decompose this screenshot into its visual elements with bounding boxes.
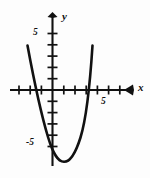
- coordinate-plot-svg: [0, 0, 150, 178]
- parabola-curve: [28, 46, 93, 162]
- y-tick-label-5: 5: [33, 28, 38, 38]
- y-tick-label-negative-5: -5: [26, 138, 34, 148]
- x-tick-label-5: 5: [101, 97, 106, 107]
- parabola-figure: y x 5 5 -5: [0, 0, 150, 178]
- x-axis-label: x: [138, 82, 144, 93]
- x-axis-arrowhead: [124, 85, 134, 96]
- y-axis-arrowhead: [48, 12, 58, 18]
- y-axis-label: y: [62, 11, 67, 22]
